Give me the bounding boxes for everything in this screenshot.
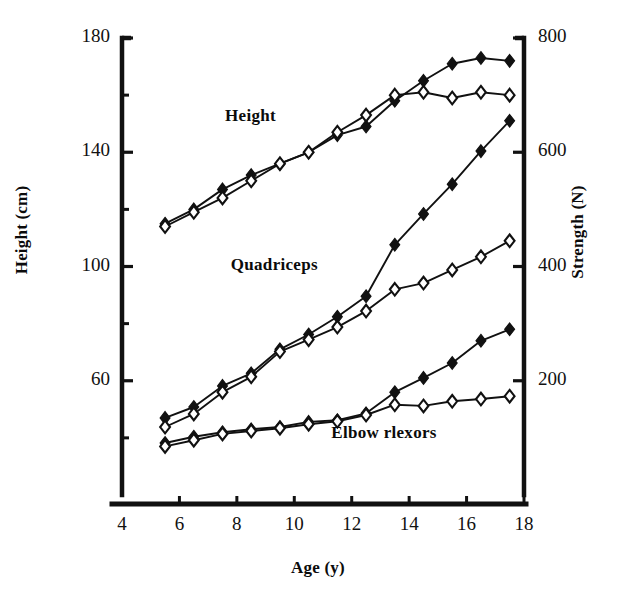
data-point-marker	[447, 92, 457, 105]
figure-container: Height (cm) Strength (N) Age (y) 6010014…	[0, 0, 631, 607]
data-point-marker	[447, 57, 457, 70]
series-annotation-label: Elbow rlexors	[331, 423, 436, 443]
series-quadriceps-boys	[160, 115, 514, 425]
x-axis-tick-label: 18	[504, 513, 544, 535]
data-point-marker	[419, 372, 429, 385]
data-point-marker	[160, 421, 170, 434]
y-axis-right-tick-label: 400	[538, 254, 598, 276]
data-point-marker	[476, 334, 486, 347]
y-axis-right-title: Strength (N)	[568, 152, 588, 312]
data-point-marker	[332, 321, 342, 334]
data-point-marker	[505, 323, 515, 336]
y-axis-left-tick-label: 60	[54, 368, 110, 390]
series-annotation-label: Height	[225, 106, 276, 126]
x-axis-tick-label: 12	[332, 513, 372, 535]
data-point-marker	[476, 52, 486, 65]
data-point-marker	[419, 400, 429, 413]
y-axis-right-tick-label: 800	[538, 25, 598, 47]
y-axis-right-tick-label: 600	[538, 139, 598, 161]
y-axis-left-tick-label: 140	[54, 139, 110, 161]
y-axis-right-tick-label: 200	[538, 368, 598, 390]
x-axis-tick-label: 6	[159, 513, 199, 535]
data-point-marker	[476, 86, 486, 99]
data-point-marker	[275, 422, 285, 435]
series-quadriceps-girls	[160, 234, 514, 433]
data-point-marker	[275, 157, 285, 170]
data-point-marker	[390, 398, 400, 411]
data-point-marker	[419, 277, 429, 290]
series-line	[165, 92, 510, 226]
x-axis-title: Age (y)	[228, 558, 408, 578]
data-point-marker	[476, 393, 486, 406]
data-point-marker	[476, 250, 486, 263]
data-point-marker	[447, 264, 457, 277]
y-axis-left-tick-label: 180	[54, 25, 110, 47]
data-point-marker	[390, 283, 400, 296]
data-point-marker	[361, 109, 371, 122]
data-point-marker	[505, 234, 515, 247]
x-axis-tick-label: 10	[274, 513, 314, 535]
data-point-marker	[447, 357, 457, 370]
data-point-marker	[419, 86, 429, 99]
y-axis-left-title: Height (cm)	[12, 150, 32, 310]
data-point-marker	[361, 305, 371, 318]
data-point-marker	[304, 146, 314, 159]
x-axis-tick-label: 8	[217, 513, 257, 535]
series-annotation-label: Quadriceps	[231, 255, 318, 275]
data-point-marker	[218, 192, 228, 205]
y-axis-left-tick-label: 100	[54, 254, 110, 276]
data-point-marker	[447, 395, 457, 408]
data-point-marker	[390, 386, 400, 399]
series-height-girls	[160, 86, 514, 233]
x-axis-tick-label: 16	[447, 513, 487, 535]
data-point-marker	[505, 89, 515, 102]
x-axis-tick-label: 14	[389, 513, 429, 535]
x-axis-tick-label: 4	[102, 513, 142, 535]
data-point-marker	[505, 390, 515, 403]
data-point-marker	[505, 55, 515, 68]
